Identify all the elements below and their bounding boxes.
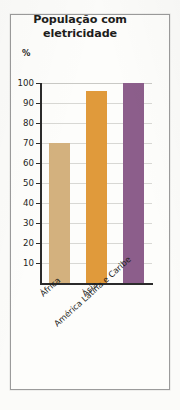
y-tick-label: 90 xyxy=(12,99,34,108)
y-tick-label: 30 xyxy=(12,219,34,228)
y-tick-label: 80 xyxy=(12,119,34,128)
y-tick-mark xyxy=(36,263,41,264)
plot-inner xyxy=(41,83,152,283)
bar xyxy=(86,91,107,283)
y-tick-label: 20 xyxy=(12,239,34,248)
y-tick-mark xyxy=(36,183,41,184)
y-tick-label: 100 xyxy=(12,79,34,88)
bar xyxy=(123,83,144,283)
x-axis-category-labels: ÁfricaÁsiaAmérica Latina e Caribe xyxy=(0,283,180,403)
y-tick-mark xyxy=(36,123,41,124)
y-tick-mark xyxy=(36,163,41,164)
bar xyxy=(49,143,70,283)
y-tick-label: 70 xyxy=(12,139,34,148)
plot-area xyxy=(41,69,152,283)
y-tick-mark xyxy=(36,223,41,224)
chart-page: População com eletricidade % 10090807060… xyxy=(0,0,180,410)
y-tick-label: 60 xyxy=(12,159,34,168)
y-tick-mark xyxy=(36,103,41,104)
y-tick-label: 50 xyxy=(12,179,34,188)
y-tick-mark xyxy=(36,243,41,244)
y-tick-label: 40 xyxy=(12,199,34,208)
y-tick-mark xyxy=(36,143,41,144)
y-tick-mark xyxy=(36,83,41,84)
y-tick-mark xyxy=(36,203,41,204)
y-tick-label: 10 xyxy=(12,259,34,268)
